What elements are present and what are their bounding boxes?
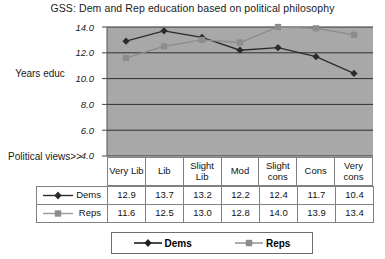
reps-point-6: [351, 32, 357, 38]
dems-value-6: 10.4: [336, 187, 374, 205]
reps-series-key-icon: [42, 205, 74, 222]
chart-container: GSS: Dem and Rep education based on poli…: [0, 0, 385, 259]
category-header-table: Very Lib Lib Slight Lib Mod Slight cons …: [107, 157, 373, 186]
reps-value-5: 13.9: [298, 205, 336, 223]
series-name-dems: Dems: [76, 189, 101, 200]
legend-label-dems: Dems: [165, 238, 192, 249]
reps-value-3: 12.8: [222, 205, 260, 223]
category-cell-3: Mod: [221, 158, 259, 186]
dems-value-0: 12.9: [108, 187, 146, 205]
reps-value-4: 14.0: [260, 205, 298, 223]
reps-value-2: 13.0: [184, 205, 222, 223]
reps-value-1: 12.5: [146, 205, 184, 223]
reps-point-1: [161, 43, 167, 49]
series-name-reps: Reps: [79, 207, 101, 218]
legend-item-dems: Dems: [134, 237, 192, 249]
category-cell-2: Slight Lib: [183, 158, 221, 186]
category-cell-5: Cons: [297, 158, 335, 186]
dems-value-2: 13.2: [184, 187, 222, 205]
axis-ticks: [102, 27, 107, 156]
series-name-cell-dems: Dems: [37, 187, 108, 205]
category-cell-0: Very Lib: [108, 158, 146, 186]
table-row-reps: Reps 11.6 12.5 13.0 12.8 14.0 13.9 13.4: [37, 205, 374, 223]
series-name-cell-reps: Reps: [37, 205, 108, 223]
reps-point-3: [237, 39, 243, 45]
reps-value-6: 13.4: [336, 205, 374, 223]
plot-background: [107, 27, 373, 156]
data-table: Dems 12.9 13.7 13.2 12.2 12.4 11.7 10.4 …: [36, 186, 374, 223]
dems-value-1: 13.7: [146, 187, 184, 205]
reps-point-5: [313, 25, 319, 31]
reps-value-0: 11.6: [108, 205, 146, 223]
category-cell-6: Very cons: [335, 158, 373, 186]
chart-legend: Dems Reps: [111, 232, 313, 254]
dems-value-4: 12.4: [260, 187, 298, 205]
dems-legend-marker-icon: [134, 237, 162, 249]
category-cell-1: Lib: [145, 158, 183, 186]
dems-value-5: 11.7: [298, 187, 336, 205]
legend-label-reps: Reps: [266, 238, 290, 249]
reps-point-4: [275, 24, 281, 30]
dems-value-3: 12.2: [222, 187, 260, 205]
category-cell-4: Slight cons: [259, 158, 297, 186]
reps-point-2: [199, 37, 205, 43]
table-row-categories: Very Lib Lib Slight Lib Mod Slight cons …: [108, 158, 373, 186]
reps-legend-marker-icon: [235, 237, 263, 249]
dems-series-key-icon: [42, 187, 74, 204]
table-row-dems: Dems 12.9 13.7 13.2 12.2 12.4 11.7 10.4: [37, 187, 374, 205]
reps-point-0: [123, 55, 129, 61]
legend-item-reps: Reps: [235, 237, 290, 249]
